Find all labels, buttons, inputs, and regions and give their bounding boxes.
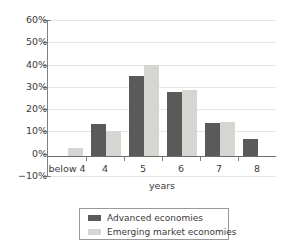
x-axis-tick: [86, 157, 87, 161]
legend-item-emerging: Emerging market economies: [88, 226, 228, 238]
x-axis-tick-label: 5: [124, 163, 162, 174]
y-axis-tick-label: 60%: [9, 15, 47, 25]
bar: [205, 123, 220, 156]
y-axis-tick-row: 50%: [0, 37, 47, 47]
legend-label-advanced: Advanced economies: [107, 213, 203, 223]
x-axis-tick-label: 4: [86, 163, 124, 174]
y-axis-tick-row: 40%: [0, 60, 47, 70]
y-axis-tick-label: 30%: [9, 82, 47, 92]
bar: [91, 124, 106, 156]
y-axis-tick-label: 20%: [9, 104, 47, 114]
x-axis-tick-label: 7: [200, 163, 238, 174]
legend-swatch-emerging-icon: [88, 229, 101, 235]
plot-area: [48, 20, 276, 156]
bar: [220, 122, 235, 156]
bar-group: [162, 20, 200, 156]
gridline: [48, 176, 276, 177]
bar-chart-figure: 60%50%40%30%20%10%0%−10% below 445678 ye…: [0, 0, 287, 250]
x-axis-tick: [238, 157, 239, 161]
y-axis-tick-row: 20%: [0, 104, 47, 114]
y-axis-tick-label: 40%: [9, 60, 47, 70]
x-axis-tick: [124, 157, 125, 161]
x-axis-tick-label: 6: [162, 163, 200, 174]
bar: [167, 92, 182, 156]
x-axis-tick-label: below 4: [48, 163, 86, 174]
bar-group: [238, 20, 276, 156]
y-axis-tick-label: 0%: [9, 149, 47, 159]
bar-group: [124, 20, 162, 156]
y-axis-tick-label: 10%: [9, 126, 47, 136]
x-axis-tick-label: 8: [238, 163, 276, 174]
bar: [129, 76, 144, 156]
bar: [106, 131, 121, 156]
bar: [68, 148, 83, 156]
bar-group: [200, 20, 238, 156]
y-axis-tick-row: −10%: [0, 171, 47, 181]
legend: Advanced economies Emerging market econo…: [79, 208, 229, 240]
bar-group: [86, 20, 124, 156]
y-axis-tick-row: 10%: [0, 126, 47, 136]
y-axis-tick-label: −10%: [9, 171, 47, 181]
bar: [144, 65, 159, 156]
bar-group: [48, 20, 86, 156]
y-axis-tick-row: 30%: [0, 82, 47, 92]
y-axis-tick-row: 0%: [0, 149, 47, 159]
bar: [243, 139, 258, 156]
y-axis-tick-label: 50%: [9, 37, 47, 47]
legend-swatch-advanced-icon: [88, 215, 101, 221]
legend-item-advanced: Advanced economies: [88, 212, 228, 224]
x-axis-tick: [162, 157, 163, 161]
y-axis-cap-bottom: [47, 176, 51, 177]
y-axis-tick-row: 60%: [0, 15, 47, 25]
legend-label-emerging: Emerging market economies: [107, 227, 237, 237]
bar: [182, 90, 197, 156]
x-axis-tick: [200, 157, 201, 161]
x-axis-title: years: [48, 180, 276, 191]
